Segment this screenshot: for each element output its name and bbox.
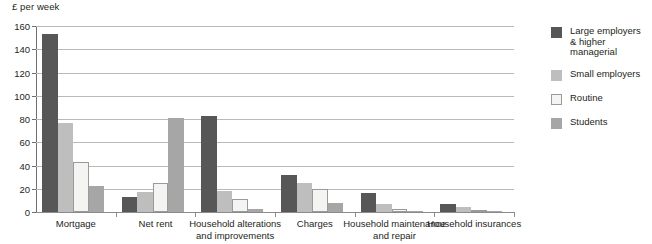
bar [297, 183, 313, 212]
bar [137, 192, 153, 212]
bar [328, 203, 344, 212]
bar [153, 183, 169, 212]
legend-item: Large employers & higher managerial [551, 26, 652, 58]
y-axis-tick-mark [32, 96, 36, 97]
y-axis-tick-label: 120 [4, 67, 30, 78]
bar [376, 204, 392, 212]
legend-item: Small employers [551, 69, 652, 82]
chart-legend: Large employers & higher managerialSmall… [551, 26, 652, 141]
bar [407, 211, 423, 212]
bar [58, 123, 74, 213]
x-axis-group-separator [514, 212, 515, 217]
bar [248, 209, 264, 212]
x-axis-group-separator [195, 212, 196, 217]
bar [89, 186, 105, 212]
bar [42, 34, 58, 212]
y-axis-tick-mark [32, 26, 36, 27]
gridline [36, 96, 514, 97]
y-axis-tick-mark [32, 189, 36, 190]
y-axis-tick-label: 0 [4, 207, 30, 218]
x-axis-group-separator [355, 212, 356, 217]
legend-label: Small employers [570, 69, 652, 80]
y-axis-tick-label: 40 [4, 160, 30, 171]
x-axis-category-label-line: and repair [343, 230, 447, 242]
y-axis-unit-label: £ per week [12, 1, 59, 12]
y-axis-tick-labels: 020406080100120140160 [0, 26, 30, 213]
y-axis-tick-label: 140 [4, 44, 30, 55]
gridline [36, 49, 514, 50]
y-axis-tick-label: 160 [4, 21, 30, 32]
bar [281, 175, 297, 212]
legend-label: Routine [570, 93, 652, 104]
bar [471, 210, 487, 212]
legend-swatch [551, 70, 562, 81]
x-axis-category-label-line: Household insurances [422, 218, 526, 230]
legend-label: Students [570, 117, 652, 128]
y-axis-tick-label: 20 [4, 183, 30, 194]
bar [232, 199, 248, 212]
y-axis-tick-mark [32, 73, 36, 74]
bar [392, 209, 408, 212]
bar [122, 197, 138, 212]
legend-item: Students [551, 117, 652, 130]
y-axis-tick-mark [32, 119, 36, 120]
bar [217, 191, 233, 212]
y-axis-tick-mark [32, 49, 36, 50]
x-axis-group-separator [434, 212, 435, 217]
gridline [36, 189, 514, 190]
gridline [36, 166, 514, 167]
bar [361, 193, 377, 212]
x-axis-category-label-line: and improvements [183, 230, 287, 242]
bar [201, 116, 217, 212]
gridline [36, 26, 514, 27]
gridline [36, 73, 514, 74]
legend-swatch [551, 118, 562, 129]
y-axis-tick-mark [32, 212, 36, 213]
y-axis-tick-mark [32, 142, 36, 143]
x-axis-category-label: Household insurances [422, 218, 526, 230]
legend-swatch [551, 27, 562, 38]
bar [312, 189, 328, 212]
legend-item: Routine [551, 93, 652, 106]
y-axis-tick-mark [32, 166, 36, 167]
gridline [36, 142, 514, 143]
bar [73, 162, 89, 212]
plot-area [36, 26, 514, 212]
bar [456, 207, 472, 212]
y-axis-tick-label: 80 [4, 114, 30, 125]
legend-label: Large employers & higher managerial [570, 26, 652, 58]
bar-chart: £ per week 020406080100120140160 Large e… [0, 0, 652, 244]
x-axis-group-separator [116, 212, 117, 217]
bar [440, 204, 456, 212]
y-axis-tick-label: 100 [4, 90, 30, 101]
x-axis-group-separator [275, 212, 276, 217]
gridline [36, 119, 514, 120]
legend-swatch [551, 94, 562, 105]
y-axis-tick-label: 60 [4, 137, 30, 148]
bar [487, 211, 503, 212]
bar [168, 118, 184, 212]
